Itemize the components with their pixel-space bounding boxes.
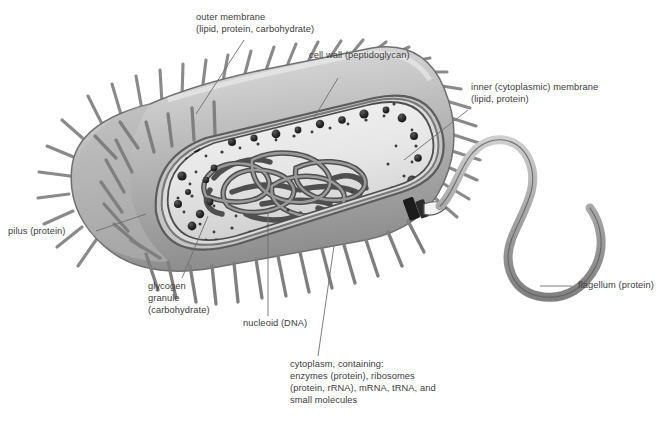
label-glycogen-granule-l2: granule (148, 293, 180, 305)
label-glycogen-granule: glycogen (148, 281, 186, 293)
label-cell-wall: cell wall (peptidoglycan) (309, 50, 410, 62)
label-nucleoid: nucleoid (DNA) (243, 318, 307, 330)
label-cytoplasm: cytoplasm, containing: (290, 359, 384, 371)
label-pilus: pilus (protein) (8, 226, 66, 238)
label-flagellum: flagellum (protein) (578, 280, 654, 292)
label-outer-membrane: outer membrane (196, 12, 265, 24)
label-outer-membrane-sub: (lipid, protein, carbohydrate) (196, 24, 314, 36)
figure-canvas: outer membrane (lipid, protein, carbohyd… (0, 0, 671, 423)
label-inner-membrane: inner (cytoplasmic) membrane (471, 82, 598, 94)
label-cytoplasm-l4: small molecules (290, 395, 357, 407)
label-cytoplasm-l3: (protein, rRNA), mRNA, tRNA, and (290, 383, 436, 395)
label-cytoplasm-l2: enzymes (protein), ribosomes (290, 371, 415, 383)
label-inner-membrane-sub: (lipid, protein) (471, 94, 529, 106)
label-glycogen-granule-l3: (carbohydrate) (148, 305, 210, 317)
